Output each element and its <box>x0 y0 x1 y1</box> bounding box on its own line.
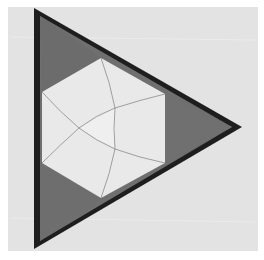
folded-paper-triangle-image <box>0 0 264 260</box>
